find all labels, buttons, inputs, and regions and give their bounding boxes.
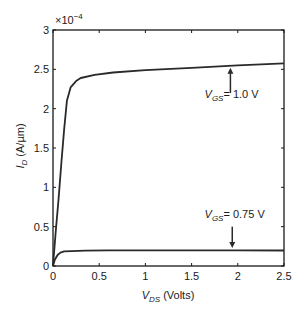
y-tick-label: 0.5 (34, 221, 49, 233)
y-axis-label: ID (A/µm) (14, 123, 29, 168)
annotation-layer: VGS= 1.0 VVGS= 0.75 V (205, 68, 266, 248)
arrow-head-icon (229, 242, 235, 248)
x-axis-ticks: 00.511.522.5 (50, 30, 292, 282)
y-tick-label: 0 (43, 260, 49, 272)
arrow-head-icon (227, 68, 233, 74)
x-tick-label: 1 (142, 270, 148, 282)
x-axis-label: VDS (Volts) (142, 289, 195, 304)
x-tick-label: 0.5 (92, 270, 107, 282)
annotation-label-2: VGS= 0.75 V (205, 208, 266, 223)
x-tick-label: 0 (50, 270, 56, 282)
x-tick-label: 2 (235, 270, 241, 282)
x-tick-label: 1.5 (184, 270, 199, 282)
y-tick-label: 3 (43, 24, 49, 36)
y-tick-label: 2.5 (34, 63, 49, 75)
y-axis-ticks: 00.511.522.53 (34, 24, 284, 272)
y-tick-label: 1 (43, 181, 49, 193)
annotation-label-1: VGS= 1.0 V (205, 88, 260, 103)
y-tick-label: 2 (43, 103, 49, 115)
y-tick-label: 1.5 (34, 142, 49, 154)
iv-characteristic-chart: 00.511.522.5 00.511.522.53 VGS= 1.0 VVGS… (0, 0, 304, 313)
series-line-2 (53, 250, 284, 266)
y-multiplier-label: ×10−4 (55, 12, 83, 26)
x-tick-label: 2.5 (276, 270, 291, 282)
